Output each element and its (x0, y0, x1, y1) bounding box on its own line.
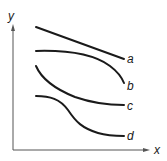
y-axis-label: y (7, 9, 15, 23)
curve-b (36, 51, 124, 83)
curve-b-label: b (127, 79, 134, 93)
curve-diagram: y x a b c d (0, 0, 167, 161)
curve-a-label: a (127, 52, 134, 66)
curve-c (36, 66, 124, 105)
curve-c-label: c (127, 99, 133, 113)
x-axis-label: x (153, 143, 161, 157)
curve-d-label: d (127, 129, 134, 143)
diagram-canvas: y x a b c d (0, 0, 167, 161)
curve-d (36, 96, 124, 136)
y-axis-arrow-icon (11, 24, 15, 31)
x-axis-arrow-icon (143, 148, 150, 152)
